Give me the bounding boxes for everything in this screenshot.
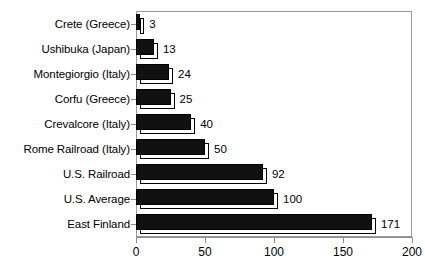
- category-axis-labels: Crete (Greece)Ushibuka (Japan)Montegiorg…: [0, 11, 130, 237]
- category-label: U.S. Average: [0, 193, 130, 205]
- category-label: U.S. Railroad: [0, 168, 130, 180]
- bar: [136, 189, 279, 206]
- bar-value-label: 50: [214, 143, 227, 156]
- x-tick-label: 0: [116, 245, 156, 259]
- bar-body: [136, 39, 154, 55]
- bar: [136, 89, 176, 106]
- bar-body: [136, 89, 171, 105]
- bar-chart: Crete (Greece)Ushibuka (Japan)Montegiorg…: [0, 0, 425, 265]
- bar-body: [136, 164, 263, 180]
- bar-body: [136, 114, 191, 130]
- bar: [136, 114, 196, 131]
- x-tick: [343, 237, 344, 243]
- x-tick-label: 200: [392, 245, 425, 259]
- category-label: Rome Railroad (Italy): [0, 143, 130, 155]
- x-tick: [412, 237, 413, 243]
- bar-value-label: 40: [200, 118, 213, 131]
- x-tick: [136, 237, 137, 243]
- category-label: Montegiorgio (Italy): [0, 68, 130, 80]
- bar-body: [136, 14, 140, 30]
- category-label: East Finland: [0, 218, 130, 230]
- bar-shadow: [140, 18, 144, 34]
- bar: [136, 214, 377, 231]
- x-tick-label: 100: [254, 245, 294, 259]
- bar: [136, 164, 268, 181]
- bar-value-label: 24: [178, 68, 191, 81]
- bar: [136, 139, 210, 156]
- bar-value-label: 100: [283, 193, 302, 206]
- x-tick: [205, 237, 206, 243]
- bar-value-label: 3: [149, 18, 155, 31]
- bar: [136, 39, 159, 56]
- bar-body: [136, 214, 372, 230]
- bar: [136, 14, 145, 31]
- bar: [136, 64, 174, 81]
- bar-value-label: 25: [180, 93, 193, 106]
- bar-body: [136, 64, 169, 80]
- bar-body: [136, 139, 205, 155]
- category-label: Ushibuka (Japan): [0, 43, 130, 55]
- bar-body: [136, 189, 274, 205]
- x-tick-label: 50: [185, 245, 225, 259]
- bar-value-label: 92: [272, 168, 285, 181]
- category-label: Crete (Greece): [0, 18, 130, 30]
- category-label: Corfu (Greece): [0, 93, 130, 105]
- bars-layer: 3132425405092100171: [136, 11, 412, 237]
- bar-value-label: 13: [163, 43, 176, 56]
- category-label: Crevalcore (Italy): [0, 118, 130, 130]
- x-tick-label: 150: [323, 245, 363, 259]
- bar-value-label: 171: [381, 218, 400, 231]
- x-tick: [274, 237, 275, 243]
